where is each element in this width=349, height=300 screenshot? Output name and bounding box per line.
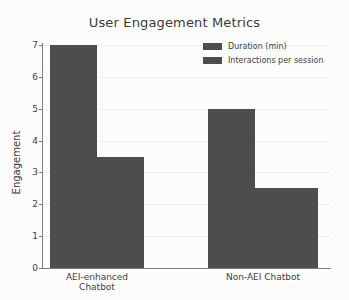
y-axis-tick-2 [39,204,43,205]
bar-1 [97,157,144,269]
y-axis-tick-label-7: 7 [32,40,38,50]
y-axis-tick-label-1: 1 [32,231,38,241]
legend-swatch-icon-1 [203,57,222,64]
chart-figure: User Engagement Metrics Engagement 76543… [0,0,349,300]
y-axis-tick-label-6: 6 [32,72,38,82]
bar-2 [208,109,255,268]
y-axis-tick-label-4: 4 [32,136,38,146]
y-axis-tick-6 [39,77,43,78]
y-axis-tick-label-0: 0 [32,263,38,273]
legend-label-0: Duration (min) [228,41,287,52]
y-axis-tick-4 [39,141,43,142]
legend-label-1: Interactions per session [228,55,324,66]
y-axis-tick-labels: 76543210 [0,0,38,300]
bar-3 [255,188,318,268]
bar-0 [50,45,97,268]
x-axis-tick-label-1: Non-AEI Chatbot [208,272,318,282]
legend-swatch-icon-0 [203,43,222,50]
legend-item-1: Interactions per session [203,55,324,66]
y-axis-tick-1 [39,236,43,237]
y-axis-tick-5 [39,109,43,110]
chart-legend: Duration (min) Interactions per session [203,41,324,69]
x-axis-tick-label-0: AEI-enhanced Chatbot [50,272,144,292]
y-axis-tick-label-5: 5 [32,104,38,114]
y-axis-tick-label-2: 2 [32,199,38,209]
x-axis-line [42,268,331,269]
chart-title: User Engagement Metrics [0,15,349,30]
legend-item-0: Duration (min) [203,41,324,52]
y-axis-tick-0 [39,268,43,269]
y-axis-tick-7 [39,45,43,46]
y-axis-tick-label-3: 3 [32,167,38,177]
y-axis-tick-3 [39,172,43,173]
